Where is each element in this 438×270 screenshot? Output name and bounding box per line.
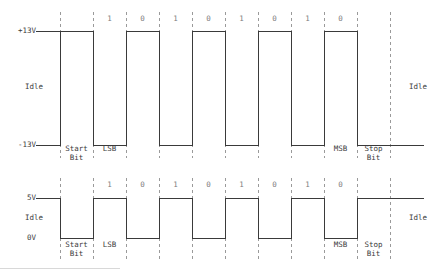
rs232-start-bit-label: Start Bit xyxy=(60,145,93,162)
rs232-bit-2: 1 xyxy=(159,14,192,23)
ttl-bit-7: 0 xyxy=(324,180,357,189)
rs232-low-label: -13V xyxy=(0,141,36,150)
rs232-stop-bit-line1: Stop Bit xyxy=(364,144,382,162)
ttl-bit-1: 0 xyxy=(126,180,159,189)
rs232-stop-bit-label: Stop Bit xyxy=(357,145,390,162)
rs232-bit-5: 0 xyxy=(258,14,291,23)
ttl-bit-6: 1 xyxy=(291,180,324,189)
rs232-msb-label: MSB xyxy=(324,145,357,154)
ttl-lsb-label: LSB xyxy=(93,241,126,250)
ttl-idle-left-label: Idle xyxy=(12,214,56,223)
ttl-trace xyxy=(36,199,424,239)
ttl-start-bit-label: Start Bit xyxy=(60,241,93,258)
rs232-bit-3: 0 xyxy=(192,14,225,23)
ttl-bit-0: 1 xyxy=(93,180,126,189)
rs232-bit-0: 1 xyxy=(93,14,126,23)
rs232-trace xyxy=(36,32,424,146)
rs232-bit-1: 0 xyxy=(126,14,159,23)
serial-waveform-diagram: +13V -13V Idle Idle Start Bit LSB MSB St… xyxy=(0,0,438,270)
ttl-start-bit-line1: Start Bit xyxy=(65,240,88,258)
rs232-bit-4: 1 xyxy=(225,14,258,23)
ttl-msb-label: MSB xyxy=(324,241,357,250)
rs232-high-label: +13V xyxy=(0,27,36,36)
ttl-bit-3: 0 xyxy=(192,180,225,189)
ttl-stop-bit-label: Stop Bit xyxy=(357,241,390,258)
ttl-high-label: 5V xyxy=(0,194,36,203)
ttl-bit-5: 0 xyxy=(258,180,291,189)
ttl-low-label: 0V xyxy=(0,234,36,243)
ttl-idle-right-label: Idle xyxy=(398,214,438,223)
rs232-bit-6: 1 xyxy=(291,14,324,23)
rs232-lsb-label: LSB xyxy=(93,145,126,154)
ttl-stop-bit-line1: Stop Bit xyxy=(364,240,382,258)
ttl-bit-2: 1 xyxy=(159,180,192,189)
rs232-start-bit-line1: Start Bit xyxy=(65,144,88,162)
ttl-bit-4: 1 xyxy=(225,180,258,189)
rs232-idle-right-label: Idle xyxy=(398,83,438,92)
rs232-bit-7: 0 xyxy=(324,14,357,23)
rs232-idle-left-label: Idle xyxy=(12,83,56,92)
waveform-canvas xyxy=(0,0,438,270)
